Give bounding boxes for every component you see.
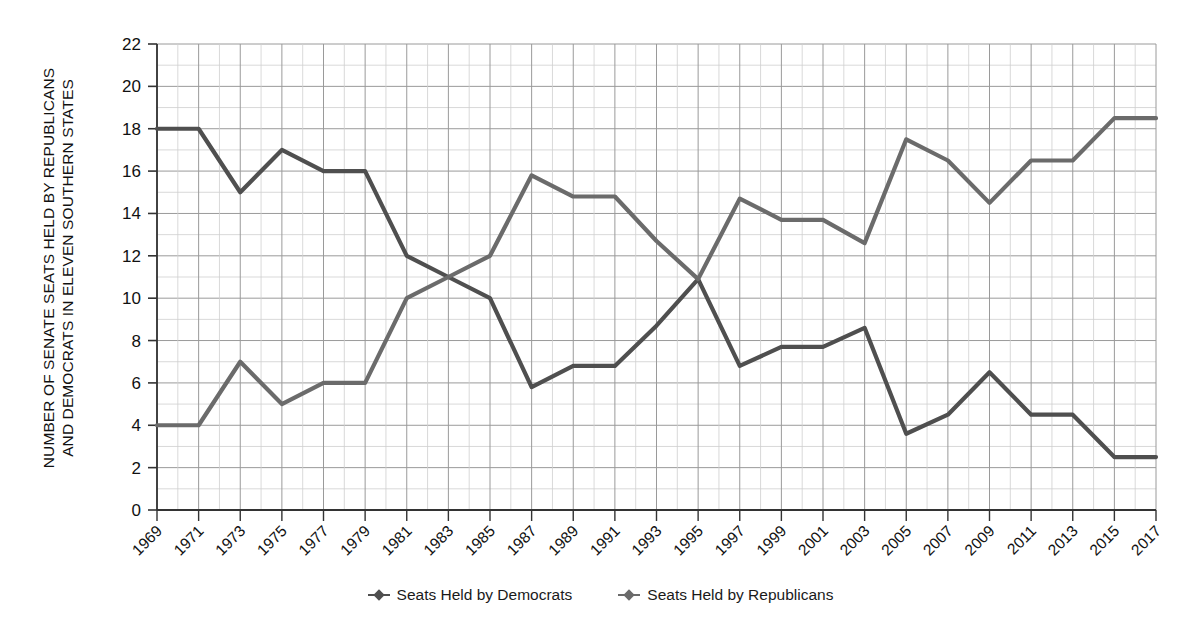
- x-tick-label: 1983: [420, 522, 456, 558]
- x-tick-label: 1999: [753, 522, 789, 558]
- x-tick-label: 1979: [337, 522, 373, 558]
- legend-marker-democrats-icon: [368, 589, 390, 601]
- y-tick-label: 6: [132, 374, 141, 393]
- x-tick-label: 1987: [503, 522, 539, 558]
- y-tick-label: 4: [132, 416, 141, 435]
- x-tick-label: 2011: [1004, 522, 1040, 558]
- legend-label-republicans: Seats Held by Republicans: [647, 586, 833, 604]
- x-tick-label: 2007: [920, 522, 956, 558]
- x-tick-label: 1997: [711, 522, 747, 558]
- x-tick-label: 1969: [129, 522, 165, 558]
- x-tick-label: 2017: [1128, 522, 1164, 558]
- x-tick-label: 2015: [1086, 522, 1122, 558]
- y-tick-label: 14: [122, 204, 141, 223]
- y-tick-label: 0: [132, 501, 141, 520]
- x-tick-label: 1989: [545, 522, 581, 558]
- x-tick-label: 1993: [628, 522, 664, 558]
- y-tick-label: 10: [122, 289, 141, 308]
- legend-label-democrats: Seats Held by Democrats: [397, 586, 573, 604]
- x-tick-label: 1995: [670, 522, 706, 558]
- x-tick-label: 1971: [170, 522, 206, 558]
- x-tick-label: 1991: [587, 522, 623, 558]
- x-tick-label: 2003: [836, 522, 872, 558]
- line-chart-plot: 0246810121416182022196919711973197519771…: [0, 0, 1201, 585]
- legend-marker-republicans-icon: [618, 589, 640, 601]
- x-tick-label: 2001: [795, 522, 831, 558]
- legend-item-democrats[interactable]: Seats Held by Democrats: [368, 586, 573, 604]
- x-tick-label: 1981: [378, 522, 414, 558]
- y-tick-label: 16: [122, 162, 141, 181]
- x-tick-label: 1973: [212, 522, 248, 558]
- y-tick-label: 8: [132, 332, 141, 351]
- y-tick-label: 12: [122, 247, 141, 266]
- y-tick-label: 2: [132, 459, 141, 478]
- legend-item-republicans[interactable]: Seats Held by Republicans: [618, 586, 833, 604]
- y-tick-label: 18: [122, 120, 141, 139]
- chart-figure: NUMBER OF SENATE SEATS HELD BY REPUBLICA…: [0, 0, 1201, 641]
- x-tick-label: 1977: [295, 522, 331, 558]
- x-tick-label: 1985: [462, 522, 498, 558]
- x-tick-label: 2005: [878, 522, 914, 558]
- chart-legend: Seats Held by Democrats Seats Held by Re…: [0, 586, 1201, 604]
- x-tick-label: 2009: [961, 522, 997, 558]
- x-tick-label: 1975: [254, 522, 290, 558]
- x-tick-label: 2013: [1044, 522, 1080, 558]
- y-tick-label: 22: [122, 35, 141, 54]
- y-tick-label: 20: [122, 77, 141, 96]
